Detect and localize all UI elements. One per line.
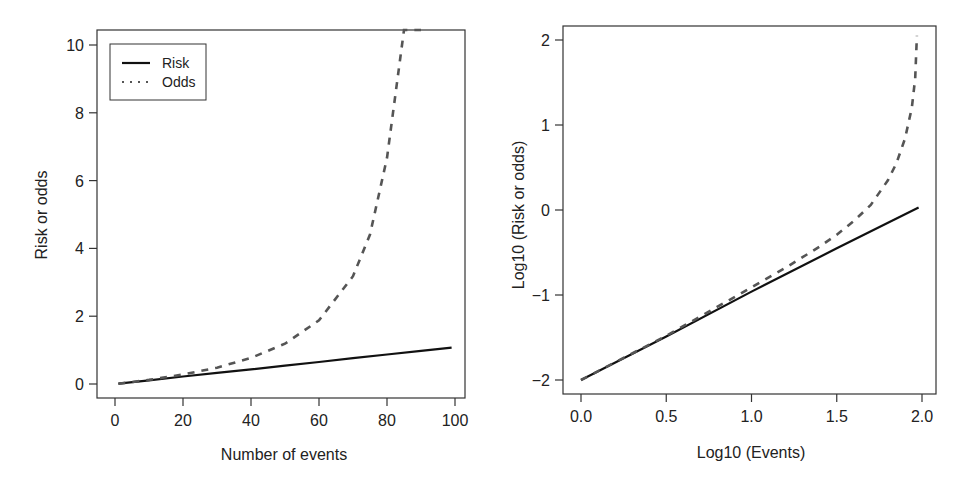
- y-tick-label: 1: [541, 117, 550, 134]
- y-tick-label: 0: [541, 202, 550, 219]
- left-y-axis-title: Risk or odds: [33, 171, 50, 260]
- x-tick-label: 100: [442, 412, 469, 429]
- x-tick-label: 0.0: [570, 408, 592, 425]
- right-panel: −2−1012 0.00.51.01.52.0 Log10 (Events) L…: [510, 26, 936, 461]
- y-tick-label: 4: [75, 240, 84, 257]
- x-tick-label: 0: [111, 412, 120, 429]
- left-panel: 0246810 020406080100 Number of events Ri…: [33, 30, 468, 463]
- y-tick-label: −2: [532, 372, 550, 389]
- x-tick-label: 0.5: [655, 408, 677, 425]
- x-tick-label: 1.5: [826, 408, 848, 425]
- x-tick-label: 80: [378, 412, 396, 429]
- legend-risk-label: Risk: [162, 55, 190, 71]
- left-y-axis: 0246810: [66, 37, 97, 393]
- legend-odds-label: Odds: [162, 74, 195, 90]
- x-tick-label: 2.0: [911, 408, 933, 425]
- legend-box: [110, 44, 206, 100]
- x-tick-label: 40: [242, 412, 260, 429]
- right-plot-frame: [563, 26, 936, 394]
- right-x-axis-title: Log10 (Events): [697, 444, 806, 461]
- y-tick-label: 10: [66, 37, 84, 54]
- figure: 0246810 020406080100 Number of events Ri…: [0, 0, 962, 482]
- x-tick-label: 1.0: [740, 408, 762, 425]
- right-y-axis-title: Log10 (Risk or odds): [510, 141, 527, 290]
- left-x-axis: 020406080100: [111, 398, 469, 429]
- right-x-axis: 0.00.51.01.52.0: [570, 394, 933, 425]
- right-y-axis: −2−1012: [532, 32, 563, 389]
- y-tick-label: −1: [532, 287, 550, 304]
- y-tick-label: 6: [75, 173, 84, 190]
- right-odds-line: [581, 36, 917, 380]
- legend: Risk Odds: [110, 44, 206, 100]
- y-tick-label: 0: [75, 376, 84, 393]
- left-x-axis-title: Number of events: [221, 446, 347, 463]
- y-tick-label: 2: [75, 308, 84, 325]
- y-tick-label: 2: [541, 32, 550, 49]
- y-tick-label: 8: [75, 105, 84, 122]
- x-tick-label: 20: [174, 412, 192, 429]
- x-tick-label: 60: [310, 412, 328, 429]
- left-risk-line: [118, 348, 451, 384]
